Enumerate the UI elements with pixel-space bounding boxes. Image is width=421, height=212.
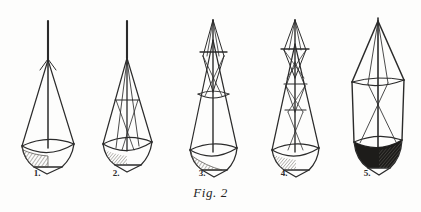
figure-label-4: 4. [274,168,294,178]
figure-4-net [272,20,319,177]
figure-3-net [190,20,237,177]
figure-label-5: 5. [357,168,377,178]
figure-label-3: 3. [192,168,212,178]
figure-1-net [22,21,74,174]
figure-label-2: 2. [106,168,126,178]
figure-label-1: 1. [27,168,47,178]
figure-illustration [0,0,421,212]
figure-plate: 1. 2. 3. 4. 5. Fig. 2 [0,0,421,212]
figure-5-net [352,18,404,175]
figure-caption: Fig. 2 [0,185,421,201]
figure-2-net [103,21,152,172]
